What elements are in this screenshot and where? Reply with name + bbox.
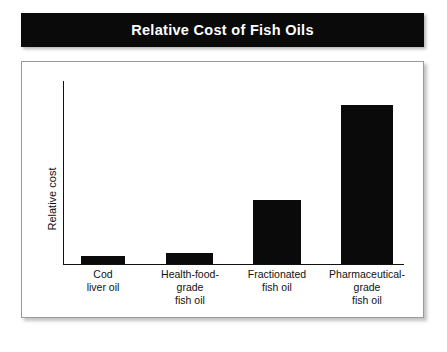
bar-cod-liver-oil — [81, 256, 125, 264]
chart-title-banner: Relative Cost of Fish Oils — [21, 13, 424, 47]
page-title: Relative Cost of Fish Oils — [131, 22, 314, 38]
plot-area: Relative cost Codliver oil Health-food-g… — [22, 62, 423, 317]
y-axis-line — [63, 81, 64, 264]
bar-pharmaceutical-grade-fish-oil — [341, 105, 393, 264]
figure-frame: Relative cost Codliver oil Health-food-g… — [21, 61, 424, 318]
x-tick-label-3: Pharmaceutical-gradefish oil — [301, 268, 433, 307]
bar-health-food-grade-fish-oil — [166, 253, 213, 264]
bar-fractionated-fish-oil — [253, 200, 301, 264]
y-axis-label: Relative cost — [46, 144, 58, 254]
x-axis-line — [63, 264, 404, 265]
